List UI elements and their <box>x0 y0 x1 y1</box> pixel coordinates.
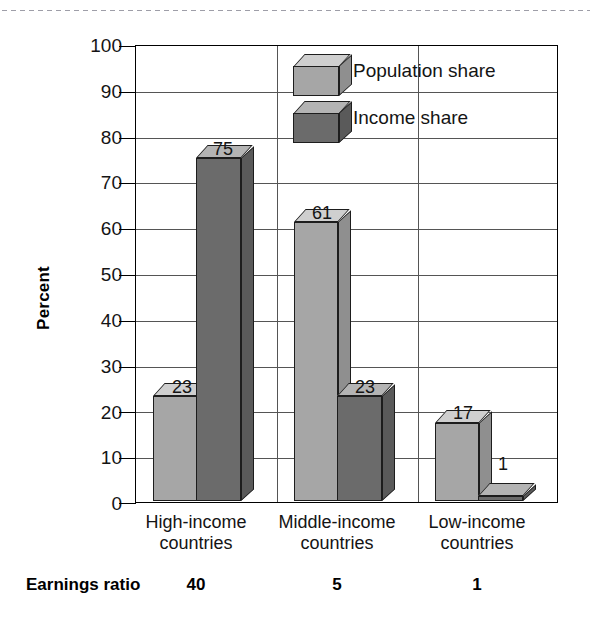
category-label-low-income-line1: Low-income <box>402 512 552 533</box>
gridline-80 <box>136 138 557 139</box>
category-label-middle-income-line2: countries <box>262 533 412 554</box>
bar-value-high-income-population-share: 23 <box>172 378 192 396</box>
y-tick-30 <box>119 367 136 368</box>
earnings-ratio-label: Earnings ratio <box>26 575 140 595</box>
y-tick-40 <box>119 321 136 322</box>
bar-low-income-income-share <box>478 496 523 501</box>
bar-value-low-income-population-share: 17 <box>453 404 473 422</box>
category-label-middle-income: Middle-income countries <box>262 512 412 554</box>
y-tick-90 <box>119 92 136 93</box>
y-tick-label-50: 50 <box>72 265 122 284</box>
earnings-ratio-value-middle-income: 5 <box>277 575 397 595</box>
y-tick-60 <box>119 229 136 230</box>
category-label-middle-income-line1: Middle-income <box>262 512 412 533</box>
y-tick-50 <box>119 275 136 276</box>
category-label-high-income-line2: countries <box>121 533 271 554</box>
dark-cube-icon <box>293 101 339 143</box>
y-tick-70 <box>119 183 136 184</box>
bar-low-income-population-share <box>435 423 479 501</box>
bar-value-middle-income-income-share: 23 <box>355 378 375 396</box>
legend-label-income-share: Income share <box>353 107 468 129</box>
group-separator-1 <box>277 46 278 502</box>
category-label-low-income: Low-income countries <box>402 512 552 554</box>
y-tick-label-30: 30 <box>72 357 122 376</box>
category-label-low-income-line2: countries <box>402 533 552 554</box>
earnings-ratio-value-low-income: 1 <box>417 575 537 595</box>
category-label-high-income: High-income countries <box>121 512 271 554</box>
bar-high-income-income-share <box>196 158 241 501</box>
y-tick-label-20: 20 <box>72 403 122 422</box>
light-cube-icon <box>293 54 339 96</box>
bar-value-high-income-income-share: 75 <box>213 140 233 158</box>
y-tick-10 <box>119 458 136 459</box>
y-tick-label-10: 10 <box>72 448 122 467</box>
y-axis-title: Percent <box>34 266 54 330</box>
gridline-90 <box>136 92 557 93</box>
category-label-high-income-line1: High-income <box>121 512 271 533</box>
earnings-ratio-value-high-income: 40 <box>136 575 256 595</box>
y-tick-label-0: 0 <box>72 494 122 513</box>
y-tick-label-40: 40 <box>72 311 122 330</box>
y-tick-20 <box>119 412 136 413</box>
y-tick-label-80: 80 <box>72 128 122 147</box>
y-tick-80 <box>119 138 136 139</box>
y-tick-label-70: 70 <box>72 173 122 192</box>
bar-middle-income-income-share <box>337 396 382 501</box>
legend-label-population-share: Population share <box>353 60 496 82</box>
bar-middle-income-population-share <box>294 222 338 501</box>
y-tick-label-60: 60 <box>72 219 122 238</box>
bar-value-low-income-income-share: 1 <box>498 455 508 473</box>
y-tick-0 <box>119 503 136 504</box>
y-tick-label-90: 90 <box>72 82 122 101</box>
y-tick-100 <box>119 46 136 47</box>
plot-area: Percent Population share <box>135 45 558 503</box>
chart-figure: 100 90 80 70 60 50 40 30 20 10 0 Percent <box>0 0 590 620</box>
y-tick-label-100: 100 <box>72 36 122 55</box>
bar-value-middle-income-population-share: 61 <box>312 204 332 222</box>
bar-high-income-population-share <box>153 396 197 501</box>
page-rule-dotted <box>0 9 590 12</box>
